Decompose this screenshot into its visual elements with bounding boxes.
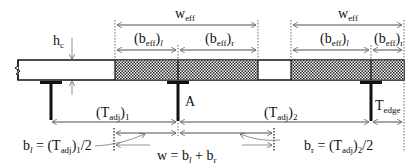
tadj2-label: (Tadj)2 bbox=[264, 105, 297, 122]
weff-label-right: weff bbox=[338, 6, 358, 23]
effective-width-diagram: hc weff weff (beff)l (beff)r (beff)l (be… bbox=[0, 0, 420, 167]
tedge-label: Tedge bbox=[375, 98, 401, 115]
girder-left bbox=[40, 81, 62, 120]
hatched-region-left bbox=[115, 61, 258, 80]
beff-right-label-1: (beff)r bbox=[205, 31, 234, 48]
weff-label-left: weff bbox=[175, 6, 195, 23]
beff-left-label-1: (beff)l bbox=[134, 31, 163, 48]
beff-right-label-2: (beff)r bbox=[374, 31, 403, 48]
tadj-dimension-lines bbox=[52, 122, 402, 146]
br-equation: br = (Tadj)2/2 bbox=[304, 138, 373, 155]
girder-a-label: A bbox=[185, 94, 196, 109]
hatched-region-right bbox=[291, 61, 404, 80]
hc-label: hc bbox=[53, 33, 64, 50]
beff-left-label-2: (beff)l bbox=[320, 31, 349, 48]
w-equation: w = bl + br bbox=[157, 148, 216, 165]
tadj1-label: (Tadj)1 bbox=[96, 105, 129, 122]
bl-equation: bl = (Tadj)1/2 bbox=[23, 138, 92, 155]
deck-slab bbox=[15, 60, 404, 80]
